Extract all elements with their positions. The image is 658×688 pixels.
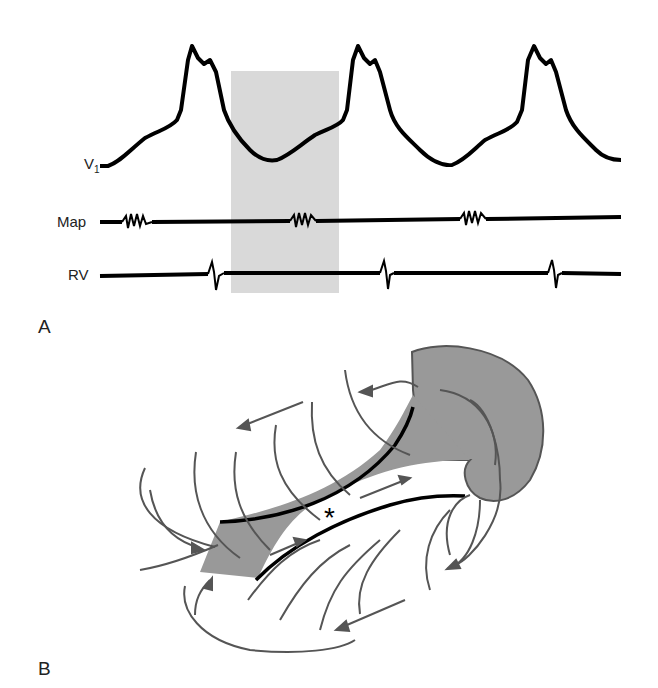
panel-label-a: A	[38, 316, 51, 338]
reentry-isthmus-diagram	[140, 346, 543, 652]
rv-spike-3	[548, 260, 562, 288]
map-fractionated-potential-3	[460, 211, 486, 225]
figure-canvas	[0, 0, 658, 688]
map-fractionated-potential-1	[122, 214, 152, 228]
trace-label-map: Map	[57, 213, 86, 230]
trace-label-rv: RV	[68, 266, 89, 283]
v1-ecg-trace	[100, 46, 621, 166]
isthmus-channel-shading	[200, 395, 470, 578]
map-electrogram-trace	[100, 217, 621, 222]
diastolic-window-highlight	[231, 71, 339, 293]
rv-spike-1	[208, 262, 224, 290]
rv-spike-2	[380, 261, 394, 289]
rv-electrogram-trace	[100, 273, 621, 276]
trace-label-v1: V1	[84, 155, 100, 175]
propagation-arrow	[340, 600, 405, 628]
panel-label-b: B	[38, 658, 51, 680]
isthmus-center-marker: *	[324, 502, 335, 534]
